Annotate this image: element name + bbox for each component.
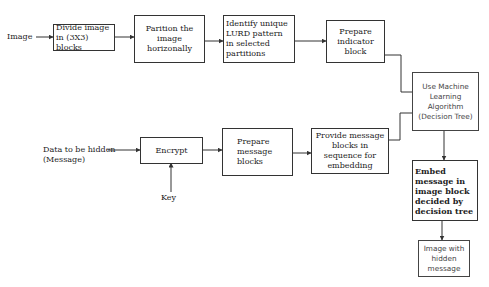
node-output-image: Image with hidden message — [418, 240, 470, 277]
node-embed-text: Embed message in image block decided by … — [415, 166, 475, 216]
node-prepare-message-blocks: Prepare message blocks — [222, 128, 293, 176]
input-image-label: Image — [7, 32, 32, 42]
node-ml-text: Use Machine Learning Algorithm (Decision… — [415, 82, 476, 122]
node-divide-image: Divide image in (3X3) blocks — [53, 24, 115, 51]
node-prepare-indicator: Prepare indicator block — [326, 20, 385, 63]
input-key-label: Key — [161, 193, 176, 203]
node-encrypt-text: Encrypt — [155, 146, 187, 156]
node-partition-text: Parition the image horizonally — [137, 24, 202, 54]
node-partition-image: Parition the image horizonally — [134, 15, 205, 63]
node-divide-text: Divide image in (3X3) blocks — [56, 23, 112, 53]
node-ml-decision-tree: Use Machine Learning Algorithm (Decision… — [412, 72, 479, 131]
node-embed-message: Embed message in image block decided by … — [412, 160, 478, 221]
node-identify-lurd: Identify unique LURD pattern in selected… — [223, 15, 295, 63]
input-message-label-line1: Data to be hidden — [43, 145, 116, 155]
node-indicator-text: Prepare indicator block — [329, 27, 382, 57]
node-provide-text: Provide message blocks in sequence for e… — [314, 131, 386, 171]
steganography-flow-diagram: Image Divide image in (3X3) blocks Parit… — [0, 0, 489, 287]
node-provide-message-blocks: Provide message blocks in sequence for e… — [311, 128, 389, 174]
node-encrypt: Encrypt — [140, 137, 203, 164]
node-prepare-message-text: Prepare message blocks — [225, 137, 290, 167]
node-output-text: Image with hidden message — [421, 244, 467, 274]
input-message-label-line2: (Message) — [43, 155, 85, 165]
node-identify-text: Identify unique LURD pattern in selected… — [226, 19, 292, 59]
